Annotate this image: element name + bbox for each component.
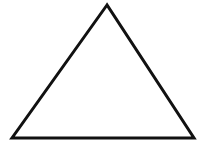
triangle-shape: [12, 5, 194, 138]
triangle-diagram: [0, 0, 203, 151]
